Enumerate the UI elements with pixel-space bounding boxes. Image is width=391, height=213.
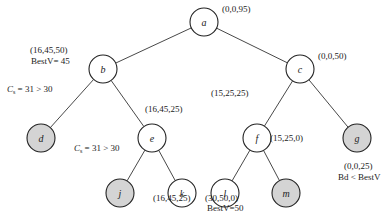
tree-nodes: abcdefgjklm [27,8,371,207]
edge-f-l [232,150,250,181]
tree-node-a: a [190,8,218,36]
tree-node-d: d [27,124,55,152]
search-tree-diagram: abcdefgjklm (0,0,95) (16,45,50) BestV= 4… [0,0,391,213]
edge-a-b [116,28,192,63]
edge-c-f [264,81,292,126]
node-b-state: (16,45,50) [30,45,68,55]
edge-f-m [264,150,280,180]
node-l-state: (30,50,0) [205,193,238,203]
tree-node-b: b [89,55,117,83]
node-m-state: (15,25,0) [270,133,303,143]
edge-c-g [309,80,348,127]
node-k-state: (16,45,25) [153,193,191,203]
tree-node-f: f [243,124,271,152]
node-label: c [298,64,303,75]
node-label: g [355,133,360,144]
node-g-bound-condition: Bd < BestV [338,172,381,182]
node-d-prune-condition: Cs = 31 > 30 [7,84,53,95]
node-c-state: (0,0,50) [318,51,347,61]
tree-node-e: e [138,124,166,152]
edge-b-e [111,80,144,126]
tree-edges [50,28,348,181]
node-j-prune-condition: Cs = 31 > 30 [74,143,120,154]
node-a-state: (0,0,95) [222,4,251,14]
node-f-state: (15,25,25) [211,88,249,98]
node-label: m [282,188,289,199]
edge-a-c [217,28,288,63]
tree-node-m: m [272,179,300,207]
node-label: b [101,64,106,75]
tree-node-c: c [286,55,314,83]
node-l-best-value: BestV=50 [207,203,244,213]
tree-node-j: j [106,179,134,207]
edge-b-d [50,79,93,127]
node-label: a [202,17,207,28]
node-label: e [150,133,155,144]
node-b-best-value: BestV= 45 [31,56,70,66]
node-e-state: (16,45,25) [145,104,183,114]
edge-e-j [127,150,145,181]
tree-node-g: g [343,124,371,152]
node-g-state: (0,0,25) [344,161,373,171]
edge-e-k [159,150,176,180]
